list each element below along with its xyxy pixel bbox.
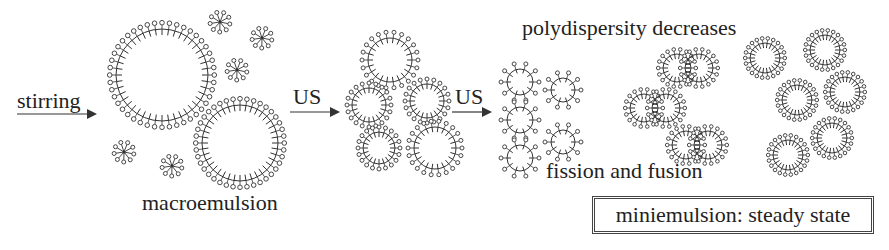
- droplet-icon: [810, 117, 853, 160]
- droplet-icon: [406, 119, 464, 176]
- us-label-1: US: [293, 84, 321, 110]
- droplet-icon: [803, 29, 846, 72]
- micelle-icon: [112, 141, 136, 164]
- droplet-icon: [656, 48, 697, 89]
- droplet-icon: [823, 71, 866, 114]
- droplet-icon: [543, 71, 583, 109]
- fission-fusion-label: fission and fusion: [546, 158, 702, 184]
- droplet-icon: [499, 138, 541, 178]
- droplet-icon: [543, 123, 583, 161]
- droplet-icon: [645, 88, 686, 129]
- stirring-label: stirring: [17, 88, 81, 114]
- droplet-icon: [356, 125, 402, 171]
- micelle-icon: [225, 59, 249, 82]
- droplet-icon: [766, 134, 809, 177]
- droplet-icon: [107, 20, 216, 129]
- droplet-icon: [193, 96, 286, 189]
- droplet-icon: [499, 62, 541, 102]
- droplet-icon: [775, 79, 818, 122]
- us-label-2: US: [455, 84, 483, 110]
- polydispersity-label: polydispersity decreases: [522, 15, 736, 41]
- micelle-icon: [208, 11, 232, 34]
- droplet-icon: [499, 100, 541, 140]
- steady-state-box: miniemulsion: steady state: [592, 196, 874, 234]
- macroemulsion-label: macroemulsion: [142, 190, 278, 216]
- droplet-icon: [678, 48, 719, 89]
- micelle-icon: [160, 155, 184, 178]
- droplet-icon: [743, 37, 786, 80]
- micelle-icon: [250, 27, 274, 50]
- droplet-icon: [403, 77, 451, 125]
- steady-state-label: miniemulsion: steady state: [616, 202, 851, 228]
- droplet-icon: [623, 88, 664, 129]
